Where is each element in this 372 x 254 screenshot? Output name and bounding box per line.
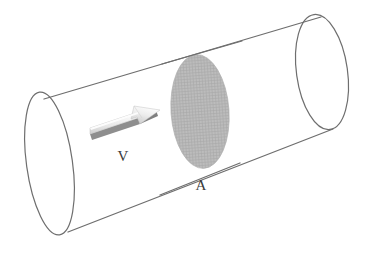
velocity-label: V [118,148,129,164]
area-label: A [196,177,207,193]
diagram-canvas: V A [0,0,372,254]
cylinder-pipe-diagram: V A [0,0,372,254]
